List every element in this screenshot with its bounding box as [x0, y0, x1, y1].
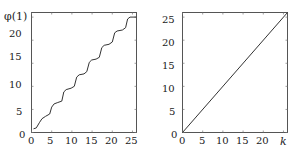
left-xtick-15: 15: [85, 135, 98, 146]
left-staircase-line: [34, 17, 137, 129]
right-ytick-0: 0: [171, 129, 177, 140]
left-xtick-25: 25: [125, 135, 138, 146]
right-ytick-10: 10: [162, 83, 175, 94]
right-ytick-20: 20: [162, 37, 175, 48]
right-xtick-20: 20: [256, 135, 269, 146]
right-ytick-5: 5: [169, 106, 175, 117]
right-linear-line: [183, 13, 288, 133]
left-y-axis-label: φ(1): [4, 10, 27, 23]
left-ytick-20: 20: [9, 28, 22, 39]
right-xtick-15: 15: [236, 135, 249, 146]
right-xtick-0: 0: [179, 135, 185, 146]
left-chart: φ(1) 20 15 10 5 0 0 5 10 15 20 25: [4, 10, 138, 146]
left-ytick-0: 0: [19, 129, 25, 140]
right-ytick-25: 25: [162, 14, 175, 25]
right-ytick-15: 15: [162, 60, 175, 71]
left-xtick-0: 0: [28, 135, 34, 146]
left-ytick-5: 5: [16, 106, 22, 117]
left-ytick-10: 10: [9, 79, 22, 90]
right-xtick-5: 5: [199, 135, 205, 146]
right-chart: 25 20 15 10 5 0 0 5 10 15 20 k: [162, 13, 288, 149]
left-xtick-5: 5: [47, 135, 53, 146]
left-ytick-15: 15: [9, 51, 22, 62]
left-xtick-20: 20: [105, 135, 118, 146]
left-xtick-10: 10: [65, 135, 78, 146]
figure: φ(1) 20 15 10 5 0 0 5 10 15 20 25 25 20 …: [0, 0, 295, 157]
right-xtick-10: 10: [216, 135, 229, 146]
right-x-axis-label: k: [280, 135, 287, 148]
